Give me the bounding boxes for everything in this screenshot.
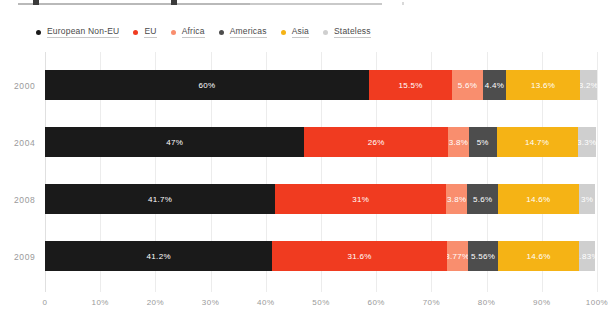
bar-segment-americas[interactable]: 4.4% xyxy=(483,70,507,100)
artifact-knob-left xyxy=(33,0,39,5)
bar-segment-value-label: 4.4% xyxy=(485,81,504,90)
bar-segment-stateless[interactable]: 3% xyxy=(579,184,596,214)
legend-item-label: Americas xyxy=(230,26,267,38)
bar-segment-eu[interactable]: 31% xyxy=(275,184,446,214)
bar-segment-value-label: 5.6% xyxy=(473,195,492,204)
bar-segment-americas[interactable]: 5% xyxy=(469,127,497,157)
artifact-knob-right xyxy=(171,0,177,5)
bar-segment-value-label: 31% xyxy=(352,195,369,204)
chart-plot-area: 60%15.5%5.6%4.4%13.6%3.2%47%26%3.8%5%14.… xyxy=(45,52,597,292)
gridline-100 xyxy=(597,52,598,292)
bar-segment-eu[interactable]: 31.6% xyxy=(272,241,446,271)
x-axis-tick-80: 80% xyxy=(478,298,496,307)
legend-item-label: Asia xyxy=(292,26,309,38)
bar-segment-asia[interactable]: 14.6% xyxy=(498,184,579,214)
bar-segment-value-label: 47% xyxy=(166,138,183,147)
bar-segment-value-label: 26% xyxy=(368,138,385,147)
x-axis-tick-40: 40% xyxy=(257,298,275,307)
bar-segment-value-label: 3.8% xyxy=(447,195,466,204)
y-axis-category-label-2000: 2000 xyxy=(14,81,40,91)
y-axis-category-label-2009: 2009 xyxy=(14,252,40,262)
x-axis-tick-50: 50% xyxy=(312,298,330,307)
bar-segment-asia[interactable]: 14.7% xyxy=(497,127,578,157)
chart-legend: European Non-EUEUAfricaAmericasAsiaState… xyxy=(36,24,385,40)
bar-segment-africa[interactable]: 3.8% xyxy=(446,184,467,214)
bar-segment-eu[interactable]: 26% xyxy=(304,127,448,157)
bar-segment-eu[interactable]: 15.5% xyxy=(369,70,453,100)
bar-segment-european-non-eu[interactable]: 41.2% xyxy=(45,241,272,271)
legend-dot-icon xyxy=(171,30,176,35)
x-axis-tick-10: 10% xyxy=(91,298,109,307)
bar-segment-european-non-eu[interactable]: 41.7% xyxy=(45,184,275,214)
bar-segment-european-non-eu[interactable]: 47% xyxy=(45,127,304,157)
bar-row-2009: 41.2%31.6%3.77%5.56%14.6%2.83% xyxy=(45,241,597,271)
x-axis-tick-100: 100% xyxy=(586,298,608,307)
bar-segment-americas[interactable]: 5.6% xyxy=(467,184,498,214)
artifact-rule-left xyxy=(18,3,250,5)
legend-dot-icon xyxy=(36,30,41,35)
bar-segment-stateless[interactable]: 3.3% xyxy=(578,127,596,157)
legend-item-label: Africa xyxy=(182,26,205,38)
bar-segment-value-label: 3% xyxy=(581,195,593,204)
bar-segment-value-label: 3.2% xyxy=(580,81,597,90)
bar-segment-africa[interactable]: 3.8% xyxy=(448,127,469,157)
bar-segment-value-label: 41.2% xyxy=(147,252,171,261)
legend-dot-icon xyxy=(323,30,328,35)
bar-segment-value-label: 3.3% xyxy=(578,138,596,147)
bar-segment-asia[interactable]: 14.6% xyxy=(498,241,579,271)
bar-row-2000: 60%15.5%5.6%4.4%13.6%3.2% xyxy=(45,70,597,100)
bar-segment-value-label: 31.6% xyxy=(348,252,372,261)
legend-item-asia[interactable]: Asia xyxy=(281,26,309,38)
bar-segment-value-label: 3.8% xyxy=(449,138,468,147)
legend-item-european-non-eu[interactable]: European Non-EU xyxy=(36,26,119,38)
bar-segment-value-label: 60% xyxy=(198,81,215,90)
bar-segment-value-label: 41.7% xyxy=(148,195,172,204)
legend-item-label: EU xyxy=(144,26,156,38)
x-axis-tick-labels: 010%20%30%40%50%60%70%80%90%100% xyxy=(45,298,597,314)
bar-segment-value-label: 14.6% xyxy=(527,252,551,261)
bar-segment-stateless[interactable]: 3.2% xyxy=(580,70,597,100)
legend-item-label: European Non-EU xyxy=(47,26,119,38)
bar-segment-value-label: 14.7% xyxy=(525,138,549,147)
bar-segment-africa[interactable]: 5.6% xyxy=(452,70,482,100)
bar-segment-value-label: 5.6% xyxy=(458,81,477,90)
bar-row-2008: 41.7%31%3.8%5.6%14.6%3% xyxy=(45,184,597,214)
y-axis-category-label-2004: 2004 xyxy=(14,138,40,148)
top-cropped-artifact xyxy=(0,0,615,7)
bar-segment-european-non-eu[interactable]: 60% xyxy=(45,70,369,100)
legend-dot-icon xyxy=(219,30,224,35)
x-axis-tick-0: 0 xyxy=(43,298,48,307)
bar-segment-asia[interactable]: 13.6% xyxy=(506,70,579,100)
x-axis-tick-70: 70% xyxy=(423,298,441,307)
legend-dot-icon xyxy=(133,30,138,35)
legend-item-stateless[interactable]: Stateless xyxy=(323,26,371,38)
x-axis-tick-30: 30% xyxy=(202,298,220,307)
bar-segment-value-label: 13.6% xyxy=(531,81,555,90)
legend-item-label: Stateless xyxy=(334,26,371,38)
bar-segment-value-label: 3.77% xyxy=(447,252,468,261)
x-axis-tick-20: 20% xyxy=(147,298,165,307)
y-axis-category-label-2008: 2008 xyxy=(14,195,40,205)
bar-segment-value-label: 14.6% xyxy=(526,195,550,204)
bar-segment-americas[interactable]: 5.56% xyxy=(468,241,499,271)
bar-segment-value-label: 5% xyxy=(477,138,489,147)
bar-segment-value-label: 15.5% xyxy=(398,81,422,90)
legend-item-eu[interactable]: EU xyxy=(133,26,156,38)
artifact-tick xyxy=(402,2,404,5)
bar-segment-value-label: 5.56% xyxy=(471,252,495,261)
legend-dot-icon xyxy=(281,30,286,35)
bar-segment-africa[interactable]: 3.77% xyxy=(447,241,468,271)
x-axis-tick-90: 90% xyxy=(533,298,551,307)
bar-row-2004: 47%26%3.8%5%14.7%3.3% xyxy=(45,127,597,157)
bar-segment-value-label: 2.83% xyxy=(579,252,595,261)
legend-item-americas[interactable]: Americas xyxy=(219,26,267,38)
bar-segment-stateless[interactable]: 2.83% xyxy=(579,241,595,271)
legend-item-africa[interactable]: Africa xyxy=(171,26,205,38)
x-axis-tick-60: 60% xyxy=(367,298,385,307)
artifact-rule-right xyxy=(250,3,382,5)
